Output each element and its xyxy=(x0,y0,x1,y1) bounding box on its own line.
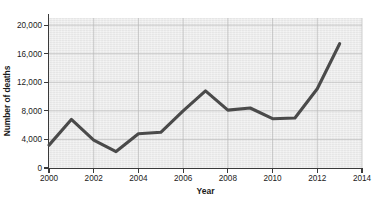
x-axis-tick-label: 2002 xyxy=(85,174,103,183)
y-axis-title-text: Number of deaths xyxy=(2,65,12,136)
data-series-line xyxy=(49,18,362,168)
x-axis-tick-label: 2000 xyxy=(40,174,58,183)
x-axis-tick-label: 2010 xyxy=(263,174,281,183)
x-axis-tick xyxy=(272,168,273,173)
x-axis-tick-label: 2006 xyxy=(174,174,192,183)
x-axis-tick-label: 2008 xyxy=(219,174,237,183)
x-axis-tick xyxy=(227,168,228,173)
plot-area xyxy=(49,18,362,168)
y-axis-tick-label: 8,000 xyxy=(22,106,43,115)
x-axis-tick xyxy=(138,168,139,173)
y-axis-title: Number of deaths xyxy=(0,0,14,201)
x-axis-title: Year xyxy=(49,186,362,196)
x-axis-tick xyxy=(361,168,362,173)
x-axis-tick xyxy=(317,168,318,173)
y-axis-tick-label: 0 xyxy=(37,164,42,173)
y-axis-tick-label: 12,000 xyxy=(17,78,42,87)
y-axis-tick-label: 4,000 xyxy=(22,135,43,144)
chart-figure: Number of deaths 04,0008,00012,00016,000… xyxy=(0,0,379,201)
x-axis-tick xyxy=(93,168,94,173)
series-polyline xyxy=(49,44,340,152)
x-axis-tick-label: 2004 xyxy=(129,174,147,183)
x-axis-tick-label: 2012 xyxy=(308,174,326,183)
x-axis-tick xyxy=(183,168,184,173)
y-axis-tick-label: 16,000 xyxy=(17,49,42,58)
x-axis-tick-label: 2014 xyxy=(353,174,371,183)
x-axis-tick xyxy=(48,168,49,173)
y-axis-tick-label: 20,000 xyxy=(17,21,42,30)
